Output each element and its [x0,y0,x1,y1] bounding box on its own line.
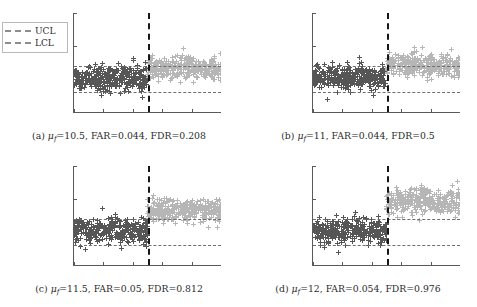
data-point [218,51,221,56]
data-point [401,205,406,210]
data-point [178,80,183,85]
data-point [149,56,154,61]
data-point [175,53,180,58]
data-point [204,71,209,76]
data-point [412,187,417,192]
data-point [423,199,428,204]
data-point [174,59,179,64]
caption-far-d: FAR=0.054, [326,283,383,294]
caption-mu-value-a: =10.5, [56,130,87,141]
data-point [394,191,399,196]
subplot-b: −5051002004006008001000 (b) μf=11, FAR=0… [239,0,477,153]
data-point [168,211,173,216]
subplot-d: −5051002004006008001000 (d) μf=12, FAR=0… [239,153,477,306]
data-point [426,56,431,61]
caption-fdr-c: FDR=0.812 [147,283,202,294]
data-point [417,70,422,75]
data-point [414,49,419,54]
data-point [403,189,408,194]
y-tick-mark [74,265,77,266]
data-point [391,71,396,76]
data-point [419,207,424,212]
data-point [449,74,454,79]
data-point [218,78,221,83]
caption-tag-d: (d) [275,283,288,294]
data-point [389,202,394,207]
data-point [195,199,200,204]
data-point [181,46,186,51]
data-point [187,209,192,214]
data-point [218,209,221,214]
data-point [448,56,453,61]
lcl-dashed-line-icon [5,42,31,44]
data-point [408,60,413,65]
data-point [160,75,165,80]
fault-onset-line [148,166,150,265]
subplot-a: −5051002004006008001000 UCL LCL (a) μf=1… [0,0,238,153]
data-point [156,79,161,84]
data-point [420,190,425,195]
caption-fdr-a: FDR=0.208 [151,130,206,141]
data-point [213,202,218,207]
data-point [435,196,440,201]
legend-label-lcl: LCL [35,39,54,48]
caption-far-c: FAR=0.05, [94,283,145,294]
data-point [456,192,460,197]
caption-mu-value-c: =11.5, [59,283,90,294]
data-point [194,207,199,212]
control-chart-figure: −5051002004006008001000 UCL LCL (a) μf=1… [0,0,477,307]
data-point [445,209,450,214]
caption-tag-a: (a) [32,130,45,141]
caption-fdr-b: FDR=0.5 [391,130,434,141]
data-point [442,200,447,205]
data-point [400,57,405,62]
data-point [209,57,214,62]
subplot-caption-c: (c) μf=11.5, FAR=0.05, FDR=0.812 [0,283,238,297]
data-point [445,193,450,198]
data-point [408,201,413,206]
caption-tag-c: (c) [35,283,47,294]
data-point [456,187,460,192]
subplot-caption-b: (b) μf=11, FAR=0.044, FDR=0.5 [239,130,477,144]
data-point [156,69,161,74]
fault-onset-line [387,13,389,112]
caption-fdr-d: FDR=0.976 [385,283,440,294]
data-point [182,202,187,207]
data-point [455,179,460,184]
y-tick-mark [74,112,77,113]
legend-label-ucl: UCL [35,27,55,36]
plot-area-d: −5051002004006008001000 [312,166,460,266]
data-point [186,54,191,59]
data-point [413,207,418,212]
data-point [196,59,201,64]
plot-area-c: −5051002004006008001000 [73,166,221,266]
data-point [420,45,425,50]
legend-row-lcl: LCL [5,37,65,49]
y-tick-mark [313,265,316,266]
data-point [428,207,433,212]
data-point [457,210,460,215]
legend-a: UCL LCL [2,22,68,53]
data-point [173,73,178,78]
legend-row-ucl: UCL [5,25,65,37]
data-point [206,225,211,230]
data-point [447,201,452,206]
caption-far-a: FAR=0.044, [91,130,148,141]
caption-mu-value-d: =12, [300,283,323,294]
data-point [441,58,446,63]
data-point [161,200,166,205]
fault-onset-line [148,13,150,112]
subplot-caption-d: (d) μf=12, FAR=0.054, FDR=0.976 [239,283,477,297]
data-point [173,221,178,226]
subplot-c: −5051002004006008001000 (c) μf=11.5, FAR… [0,153,238,306]
fault-onset-line [387,166,389,265]
data-point [449,47,454,52]
data-point [198,67,203,72]
ucl-dashed-line-icon [5,30,31,32]
data-point [191,222,196,227]
data-point [389,210,394,215]
data-point [191,80,196,85]
y-tick-mark [313,112,316,113]
data-point [168,197,173,202]
data-point [157,58,162,63]
